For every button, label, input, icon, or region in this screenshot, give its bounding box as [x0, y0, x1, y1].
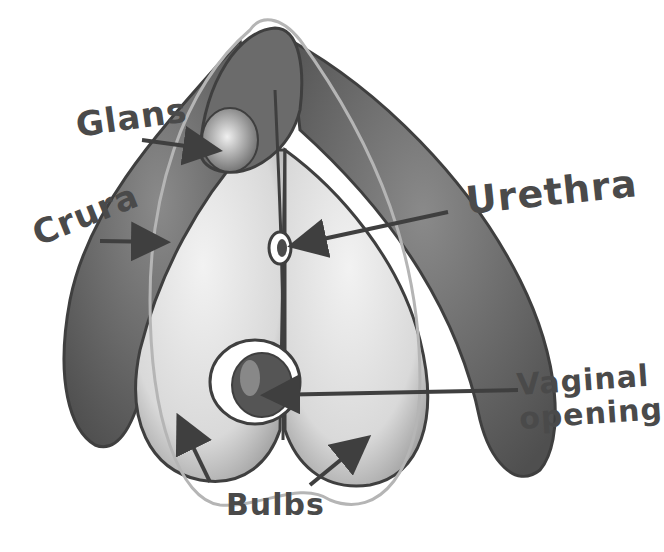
crura-arrow	[100, 241, 163, 242]
label-bulbs: Bulbs	[226, 490, 325, 520]
label-vaginal-opening: Vaginal opening	[516, 358, 664, 436]
glans	[202, 108, 258, 172]
